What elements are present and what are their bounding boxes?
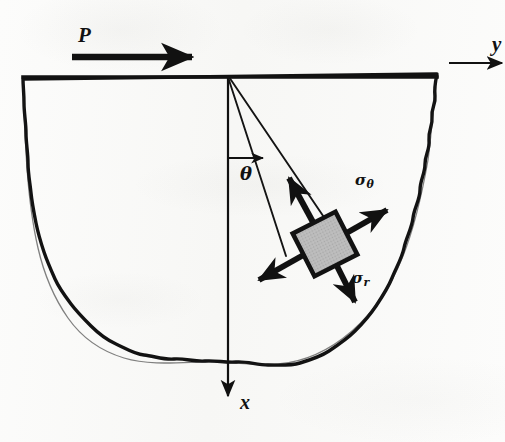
figure-canvas: P y x θ σθ σr xyxy=(0,0,505,442)
sigma-theta-arrow-negative xyxy=(259,253,307,280)
wedge-ray-outer xyxy=(229,77,334,232)
half-space-diagram xyxy=(0,0,505,442)
stress-label-sigma-r: σr xyxy=(352,271,369,288)
sigma-theta-symbol: σ xyxy=(355,171,366,189)
sigma-r-subscript: r xyxy=(363,276,369,289)
angle-label-theta: θ xyxy=(240,165,252,183)
wedge-ray-inner xyxy=(228,77,286,256)
load-label-P: P xyxy=(78,25,91,46)
axis-label-x: x xyxy=(240,392,250,412)
sigma-r-symbol: σ xyxy=(352,269,363,287)
sigma-theta-subscript: θ xyxy=(366,178,374,191)
stress-element-square xyxy=(293,212,358,277)
stress-label-sigma-theta: σθ xyxy=(355,173,374,190)
sigma-theta-arrow-positive xyxy=(343,210,387,235)
axis-label-y: y xyxy=(492,34,501,55)
